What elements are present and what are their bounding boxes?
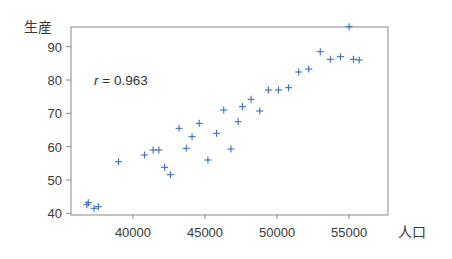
plus-marker-icon (183, 145, 190, 152)
plus-marker-icon (337, 53, 344, 60)
plus-marker-icon (265, 87, 272, 94)
plus-marker-icon (141, 152, 148, 159)
y-tick-label: 50 (48, 173, 62, 188)
plus-marker-icon (295, 69, 302, 76)
plus-marker-icon (346, 23, 353, 30)
plus-marker-icon (356, 57, 363, 64)
correlation-annotation: r = 0.963 (94, 73, 148, 88)
plus-marker-icon (248, 96, 255, 103)
plus-marker-icon (161, 164, 168, 171)
plus-marker-icon (167, 171, 174, 178)
x-axis: 40000450005000055000 (115, 215, 367, 240)
y-tick-label: 60 (48, 140, 62, 155)
plus-marker-icon (204, 157, 211, 164)
plus-marker-icon (220, 107, 227, 114)
plus-marker-icon (239, 103, 246, 110)
x-axis-title: 人口 (398, 224, 426, 240)
y-axis: 405060708090 (48, 40, 71, 222)
plus-marker-icon (189, 133, 196, 140)
x-tick-label: 45000 (187, 225, 223, 240)
scatter-chart: 405060708090 40000450005000055000 生産 人口 … (0, 0, 452, 259)
plus-marker-icon (317, 48, 324, 55)
plus-marker-icon (256, 108, 263, 115)
x-tick-label: 40000 (115, 225, 151, 240)
y-tick-label: 80 (48, 73, 62, 88)
plus-marker-icon (350, 56, 357, 63)
plus-marker-icon (91, 205, 98, 212)
plus-marker-icon (285, 84, 292, 91)
plus-marker-icon (327, 56, 334, 63)
x-tick-label: 50000 (259, 225, 295, 240)
x-tick-label: 55000 (331, 225, 367, 240)
plus-marker-icon (176, 125, 183, 132)
data-points (83, 23, 362, 212)
plus-marker-icon (227, 146, 234, 153)
y-axis-title: 生産 (24, 19, 52, 35)
plus-marker-icon (155, 147, 162, 154)
plus-marker-icon (115, 158, 122, 165)
plus-marker-icon (213, 130, 220, 137)
plus-marker-icon (235, 118, 242, 125)
y-tick-label: 90 (48, 40, 62, 55)
y-tick-label: 40 (48, 206, 62, 221)
plus-marker-icon (196, 120, 203, 127)
plus-marker-icon (95, 203, 102, 210)
plus-marker-icon (275, 87, 282, 94)
y-tick-label: 70 (48, 106, 62, 121)
plus-marker-icon (305, 66, 312, 73)
